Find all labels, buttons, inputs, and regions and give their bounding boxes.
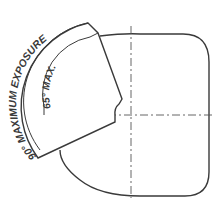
exposure-diagram: 90° MAXIMUM EXPOSURE 65° MAX. bbox=[0, 0, 219, 208]
